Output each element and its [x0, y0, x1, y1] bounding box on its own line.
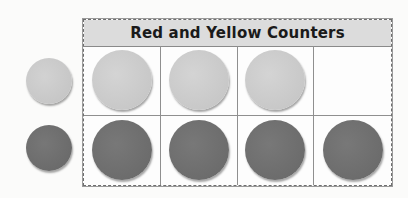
- yellow-counter: [245, 50, 305, 110]
- frame-cell: [161, 116, 238, 186]
- counter-grid: [84, 46, 391, 185]
- red-counter: [92, 120, 152, 180]
- red-counter: [169, 120, 229, 180]
- red-counter: [323, 120, 383, 180]
- frame-cell: [314, 46, 391, 116]
- legend-yellow-counter: [26, 58, 72, 104]
- frame-cell: [314, 116, 391, 186]
- frame-cell: [161, 46, 238, 116]
- frame-cell: [84, 46, 161, 116]
- frame-title: Red and Yellow Counters: [84, 20, 391, 47]
- yellow-counter: [169, 50, 229, 110]
- red-counter: [245, 120, 305, 180]
- ten-frame: Red and Yellow Counters: [83, 19, 392, 186]
- legend-red-counter: [26, 125, 72, 171]
- frame-cell: [238, 116, 315, 186]
- yellow-counter: [92, 50, 152, 110]
- frame-cell: [238, 46, 315, 116]
- frame-cell: [84, 116, 161, 186]
